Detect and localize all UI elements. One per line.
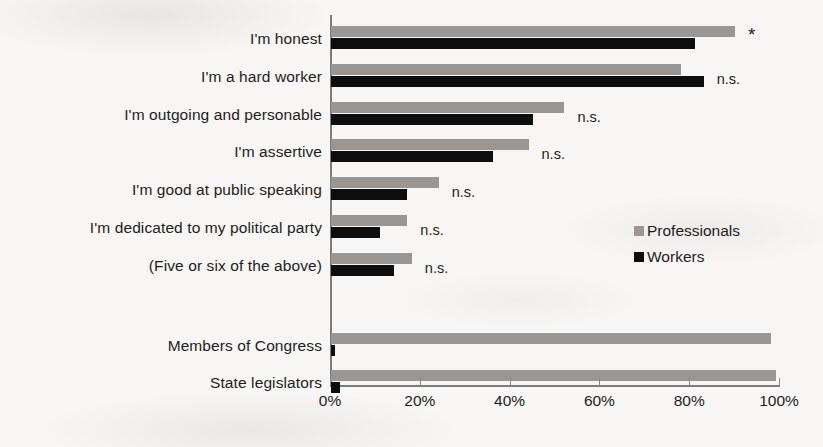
category-label: I'm a hard worker: [201, 69, 322, 85]
x-tick-mark: [330, 378, 331, 386]
significance-marker-ns: n.s.: [717, 72, 740, 86]
significance-marker-ns: n.s.: [452, 185, 475, 199]
x-tick-mark: [599, 378, 600, 386]
x-tick-mark: [420, 378, 421, 386]
category-label: Members of Congress: [168, 338, 322, 354]
significance-marker-ns: n.s.: [542, 147, 565, 161]
category-label: I'm assertive: [234, 144, 322, 160]
bar-workers: [331, 151, 493, 162]
x-tick-mark: [779, 378, 780, 386]
category-label: I'm outgoing and personable: [124, 107, 322, 123]
category-label: I'm good at public speaking: [132, 182, 322, 198]
x-axis-line: [330, 385, 780, 387]
bar-workers: [331, 189, 407, 200]
bar-professionals: [331, 102, 564, 113]
bar-professionals: [331, 370, 776, 381]
bar-workers: [331, 227, 380, 238]
x-tick-mark: [510, 378, 511, 386]
significance-marker-star: *: [748, 28, 755, 42]
x-tick-mark: [689, 378, 690, 386]
bar-workers: [331, 114, 533, 125]
category-label: I'm dedicated to my political party: [90, 220, 322, 236]
legend-swatch-wrk: [634, 252, 644, 262]
bar-workers: [331, 345, 335, 356]
bar-professionals: [331, 253, 412, 264]
horizontal-bar-chart: I'm honest*I'm a hard workern.s.I'm outg…: [0, 0, 823, 447]
bar-workers: [331, 76, 704, 87]
bar-professionals: [331, 139, 529, 150]
bar-professionals: [331, 333, 771, 344]
bar-workers: [331, 38, 695, 49]
bar-professionals: [331, 215, 407, 226]
bar-workers: [331, 265, 394, 276]
x-tick-label: 20%: [380, 393, 460, 409]
legend-label: Professionals: [647, 223, 740, 239]
x-tick-label: 0%: [290, 393, 370, 409]
bar-professionals: [331, 177, 439, 188]
significance-marker-ns: n.s.: [425, 261, 448, 275]
x-tick-label: 80%: [649, 393, 729, 409]
category-label: State legislators: [210, 375, 322, 391]
legend-label: Workers: [647, 249, 704, 265]
significance-marker-ns: n.s.: [577, 110, 600, 124]
bar-professionals: [331, 64, 681, 75]
bar-professionals: [331, 26, 735, 37]
x-tick-label: 100%: [739, 393, 819, 409]
significance-marker-ns: n.s.: [420, 223, 443, 237]
x-tick-label: 60%: [559, 393, 639, 409]
x-tick-label: 40%: [470, 393, 550, 409]
legend-swatch-pro: [634, 226, 644, 236]
category-label: (Five or six of the above): [149, 258, 322, 274]
category-label: I'm honest: [250, 31, 322, 47]
